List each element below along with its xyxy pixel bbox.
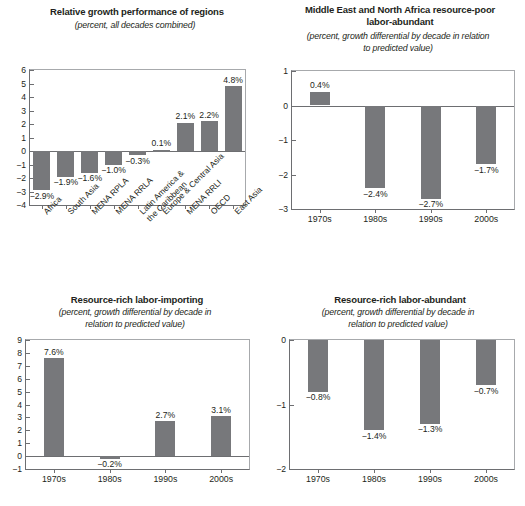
x-axis-category-label: OECD: [209, 193, 233, 217]
bar-value-label: −1.0%: [101, 165, 126, 175]
bar: [105, 151, 122, 165]
y-axis-tick-label: −2: [16, 173, 30, 183]
bar: [225, 86, 242, 151]
x-axis-category-label: 1990s: [418, 474, 442, 484]
bar-value-label: 4.8%: [223, 75, 243, 85]
bar: [365, 106, 385, 189]
bar: [364, 340, 384, 430]
bar-value-label: −1.7%: [474, 165, 499, 175]
y-axis-tick-label: −1: [278, 135, 292, 145]
panel-mena-resource-poor-labor-abundant: Middle East and North Africa resource-po…: [263, 0, 525, 253]
x-axis-category-label: 1980s: [98, 474, 122, 484]
y-axis-tick-label: −2: [276, 464, 290, 474]
bar-value-label: −2.7%: [418, 199, 443, 209]
bar: [129, 151, 146, 155]
y-axis-tick-label: 4: [21, 92, 30, 102]
y-axis-tick-label: −3: [278, 204, 292, 214]
panel-2-title-line1: Middle East and North Africa resource-po…: [263, 4, 525, 16]
panel-3-subtitle-line2: relation to predicted value): [0, 319, 270, 331]
x-axis-category-label: 2000s: [209, 474, 233, 484]
y-axis-tick-label: 3: [17, 412, 26, 422]
bar-value-label: −1.9%: [54, 177, 79, 187]
y-axis-tick-label: 1: [283, 66, 292, 76]
x-axis-tick: [318, 469, 319, 473]
bar-value-label: −1.4%: [362, 431, 387, 441]
panel-4-plot-area: −2−10−0.8%1970s−1.4%1980s−1.3%1990s−0.7%…: [289, 339, 515, 470]
bar: [476, 106, 496, 165]
bar: [57, 151, 74, 177]
panel-2-subtitle-line1: (percent, growth differential by decade …: [263, 31, 525, 43]
bar: [211, 416, 231, 456]
panel-relative-growth-performance-of-regions: Relative growth performance of regions (…: [0, 0, 262, 253]
figure-four-panel-bar-charts: Relative growth performance of regions (…: [0, 0, 525, 506]
bar-value-label: 2.2%: [199, 110, 219, 120]
bar-value-label: 3.1%: [211, 405, 231, 415]
bar-value-label: −0.3%: [125, 156, 150, 166]
y-axis-tick-label: 0: [283, 101, 292, 111]
x-axis-tick: [165, 469, 166, 473]
y-axis-tick-label: 8: [17, 348, 26, 358]
bar: [308, 340, 328, 392]
x-axis-category-label: 2000s: [474, 474, 498, 484]
bar-value-label: −1.6%: [77, 173, 102, 183]
y-axis-tick-label: 2: [21, 119, 30, 129]
x-axis-category-label-line: East Asia: [232, 185, 264, 217]
bar-value-label: 0.4%: [310, 80, 330, 90]
bar-value-label: −1.3%: [418, 424, 443, 434]
panel-4-title: Resource-rich labor-abundant: [263, 294, 525, 306]
x-axis-category-label: 1970s: [308, 214, 332, 224]
panel-2-title-line2: labor-abundant: [263, 16, 525, 28]
y-axis-tick-label: 0: [281, 335, 290, 345]
bar: [421, 106, 441, 199]
x-axis-category-label: 1970s: [42, 474, 66, 484]
bar-value-label: 7.6%: [44, 347, 64, 357]
y-axis-tick-label: 1: [17, 438, 26, 448]
bar: [44, 358, 64, 456]
y-axis-tick-label: 6: [21, 65, 30, 75]
bar-value-label: 2.7%: [156, 410, 176, 420]
x-axis-category-label: 1990s: [419, 214, 443, 224]
panel-4-subtitle-line1: (percent, growth differential by decade …: [263, 307, 525, 319]
y-axis-tick-label: 9: [17, 335, 26, 345]
x-axis-tick: [320, 209, 321, 213]
bar: [33, 151, 50, 190]
y-axis-tick-label: 2: [17, 425, 26, 435]
x-axis-tick: [110, 469, 111, 473]
x-axis-category-label: 1980s: [362, 474, 386, 484]
panel-3-title: Resource-rich labor-importing: [0, 294, 274, 306]
bar-value-label: 0.1%: [152, 138, 172, 148]
x-axis-category-label: 1990s: [153, 474, 177, 484]
y-axis-tick-label: −1: [276, 400, 290, 410]
y-axis-tick-label: −2: [278, 170, 292, 180]
x-axis-category-label: 2000s: [474, 214, 498, 224]
bar-value-label: 2.1%: [175, 111, 195, 121]
bar: [310, 92, 330, 106]
bar-value-label: −2.4%: [363, 189, 388, 199]
panel-resource-rich-labor-importing: Resource-rich labor-importing (percent, …: [0, 253, 262, 506]
x-axis-category-label: 1970s: [306, 474, 330, 484]
x-axis-category-label: 1980s: [363, 214, 387, 224]
y-axis-tick-label: 5: [21, 79, 30, 89]
y-axis-tick-label: 6: [17, 374, 26, 384]
x-axis-category-label: East Asia: [233, 185, 264, 216]
x-axis-tick: [375, 209, 376, 213]
y-axis-tick-label: −1: [12, 464, 26, 474]
bar: [476, 340, 496, 385]
zero-baseline: [26, 456, 249, 457]
bar-value-label: −0.8%: [306, 392, 331, 402]
y-axis-tick-label: 0: [17, 451, 26, 461]
bar: [155, 421, 175, 456]
panel-4-subtitle-line2: relation to predicted value): [263, 319, 525, 331]
panel-resource-rich-labor-abundant: Resource-rich labor-abundant (percent, g…: [263, 253, 525, 506]
panel-3-plot-area: −101234567897.6%1970s−0.2%1980s2.7%1990s…: [25, 339, 250, 470]
x-axis-tick: [486, 209, 487, 213]
x-axis-tick: [431, 209, 432, 213]
panel-1-plot-area: −4−3−2−10123456−2.9%Africa−1.9%South Asi…: [29, 69, 246, 206]
x-axis-tick: [54, 469, 55, 473]
x-axis-tick: [374, 469, 375, 473]
bar-value-label: −0.2%: [97, 459, 122, 469]
bar: [177, 123, 194, 151]
panel-3-subtitle-line1: (percent, growth differential by decade …: [0, 307, 270, 319]
bar-value-label: −0.7%: [474, 386, 499, 396]
y-axis-tick-label: −4: [16, 200, 30, 210]
